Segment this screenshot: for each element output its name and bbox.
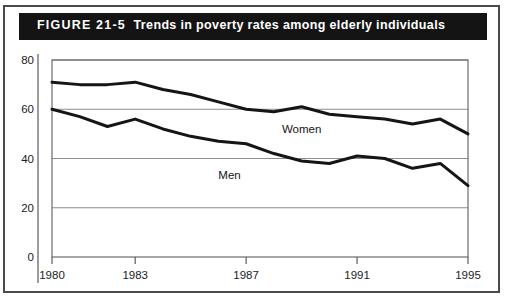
x-tick-label-1980: 1980: [39, 269, 65, 281]
series-line-men: [52, 109, 468, 185]
gridlines: [52, 60, 468, 208]
x-axis: 19801983198719911995: [39, 257, 481, 281]
data-series: [52, 82, 468, 185]
x-tick-label-1995: 1995: [455, 269, 481, 281]
series-label-women: Women: [282, 123, 321, 135]
y-axis: 020406080: [21, 54, 38, 283]
x-tick-label-1983: 1983: [122, 269, 148, 281]
y-tick-label-40: 40: [21, 153, 34, 165]
line-chart: 020406080 19801983198719911995 WomenMen: [5, 7, 502, 295]
x-tick-label-1991: 1991: [344, 269, 370, 281]
y-tick-label-0: 0: [28, 251, 34, 263]
series-label-men: Men: [218, 169, 240, 181]
y-tick-label-60: 60: [21, 103, 34, 115]
y-tick-label-20: 20: [21, 202, 34, 214]
figure-container: FIGURE 21-5 Trends in poverty rates amon…: [3, 5, 500, 293]
y-tick-label-80: 80: [21, 54, 34, 66]
x-tick-label-1987: 1987: [233, 269, 259, 281]
chart-plot-area: 020406080 19801983198719911995 WomenMen: [5, 7, 502, 295]
